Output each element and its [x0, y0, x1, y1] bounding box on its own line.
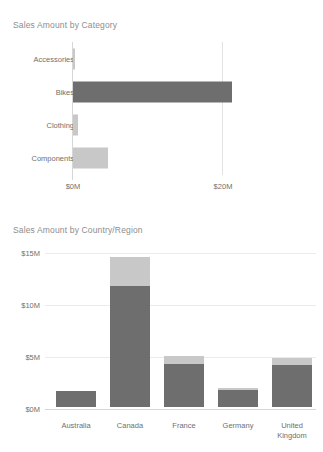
country-tick-15m: $15M: [21, 249, 40, 258]
country-label-germany: Germany: [211, 421, 265, 431]
category-plot-area: Accessories Bikes Clothing Components $0…: [0, 42, 323, 182]
category-bar-clothing[interactable]: [73, 114, 78, 135]
country-gridline-10m: [45, 305, 316, 306]
category-label-bikes: Bikes: [56, 87, 74, 96]
category-row-components: Components: [0, 141, 323, 174]
country-label-united-kingdom-line2: Kingdom: [265, 431, 319, 441]
country-segment-lower-united-kingdom[interactable]: [272, 365, 312, 407]
country-segment-upper-united-kingdom[interactable]: [272, 358, 312, 365]
category-row-bikes: Bikes: [0, 75, 323, 108]
category-chart-title: Sales Amount by Category: [13, 20, 117, 30]
category-label-clothing: Clothing: [46, 120, 74, 129]
country-segment-upper-france[interactable]: [164, 356, 204, 364]
country-label-united-kingdom: United Kingdom: [265, 421, 319, 441]
country-label-australia: Australia: [49, 421, 103, 431]
country-chart-panel: Sales Amount by Country/Region $15M $10M…: [0, 205, 323, 452]
country-label-canada: Canada: [103, 421, 157, 431]
country-segment-lower-germany[interactable]: [218, 390, 258, 407]
country-gridline-15m: [45, 253, 316, 254]
country-column-germany[interactable]: [218, 388, 258, 407]
country-segment-lower-france[interactable]: [164, 364, 204, 407]
category-tick-20m: $20M: [214, 182, 233, 191]
category-label-components: Components: [31, 153, 74, 162]
country-segment-lower-canada[interactable]: [110, 286, 150, 407]
country-chart-title: Sales Amount by Country/Region: [13, 225, 143, 235]
category-label-accessories: Accessories: [34, 54, 74, 63]
country-segment-lower-australia[interactable]: [56, 391, 96, 407]
country-column-united-kingdom[interactable]: [272, 358, 312, 407]
category-row-clothing: Clothing: [0, 108, 323, 141]
country-plot-area: $15M $10M $5M $0M Australia Canada Franc…: [0, 243, 323, 418]
category-bar-components[interactable]: [73, 147, 108, 168]
country-tick-10m: $10M: [21, 301, 40, 310]
country-column-france[interactable]: [164, 356, 204, 407]
country-label-france: France: [157, 421, 211, 431]
country-tick-0m: $0M: [25, 405, 40, 414]
category-tick-0m: $0M: [66, 182, 81, 191]
country-axis-baseline: [45, 409, 316, 410]
category-bar-accessories[interactable]: [73, 48, 75, 69]
category-chart-panel: Sales Amount by Category Accessories Bik…: [0, 0, 323, 205]
category-bar-bikes[interactable]: [73, 81, 232, 102]
country-column-australia[interactable]: [56, 391, 96, 407]
country-tick-5m: $5M: [25, 353, 40, 362]
country-column-canada[interactable]: [110, 257, 150, 407]
category-row-accessories: Accessories: [0, 42, 323, 75]
country-segment-upper-canada[interactable]: [110, 257, 150, 286]
category-tickmark-0m: [72, 175, 73, 180]
country-label-united-kingdom-line1: United: [265, 421, 319, 431]
